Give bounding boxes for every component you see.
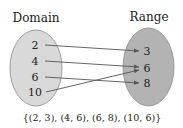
domain-value-6: 6 bbox=[32, 71, 39, 84]
mapping-diagram: Domain Range 2 4 6 10 3 6 8 {(2, 3), (4,… bbox=[0, 0, 183, 128]
domain-value-4: 4 bbox=[32, 55, 39, 68]
range-label: Range bbox=[130, 10, 169, 24]
domain-value-10: 10 bbox=[28, 86, 42, 99]
range-value-8: 8 bbox=[144, 77, 151, 90]
range-value-6: 6 bbox=[144, 62, 151, 75]
domain-label: Domain bbox=[13, 11, 60, 25]
range-value-3: 3 bbox=[144, 45, 151, 58]
domain-value-2: 2 bbox=[32, 39, 39, 52]
ordered-pairs-set: {(2, 3), (4, 6), (6, 8), (10, 6)} bbox=[23, 112, 161, 123]
